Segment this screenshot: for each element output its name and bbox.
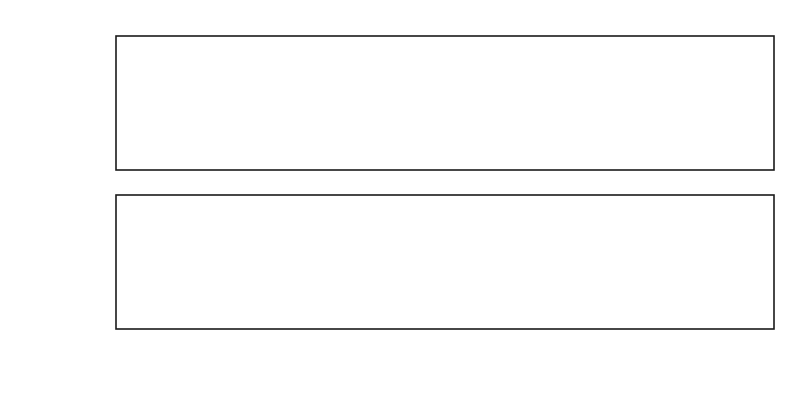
displacement-panel — [116, 36, 774, 170]
figure — [0, 0, 806, 396]
omega-panel — [116, 195, 774, 329]
top-axes-frame — [116, 36, 774, 170]
bottom-axes-frame — [116, 195, 774, 329]
